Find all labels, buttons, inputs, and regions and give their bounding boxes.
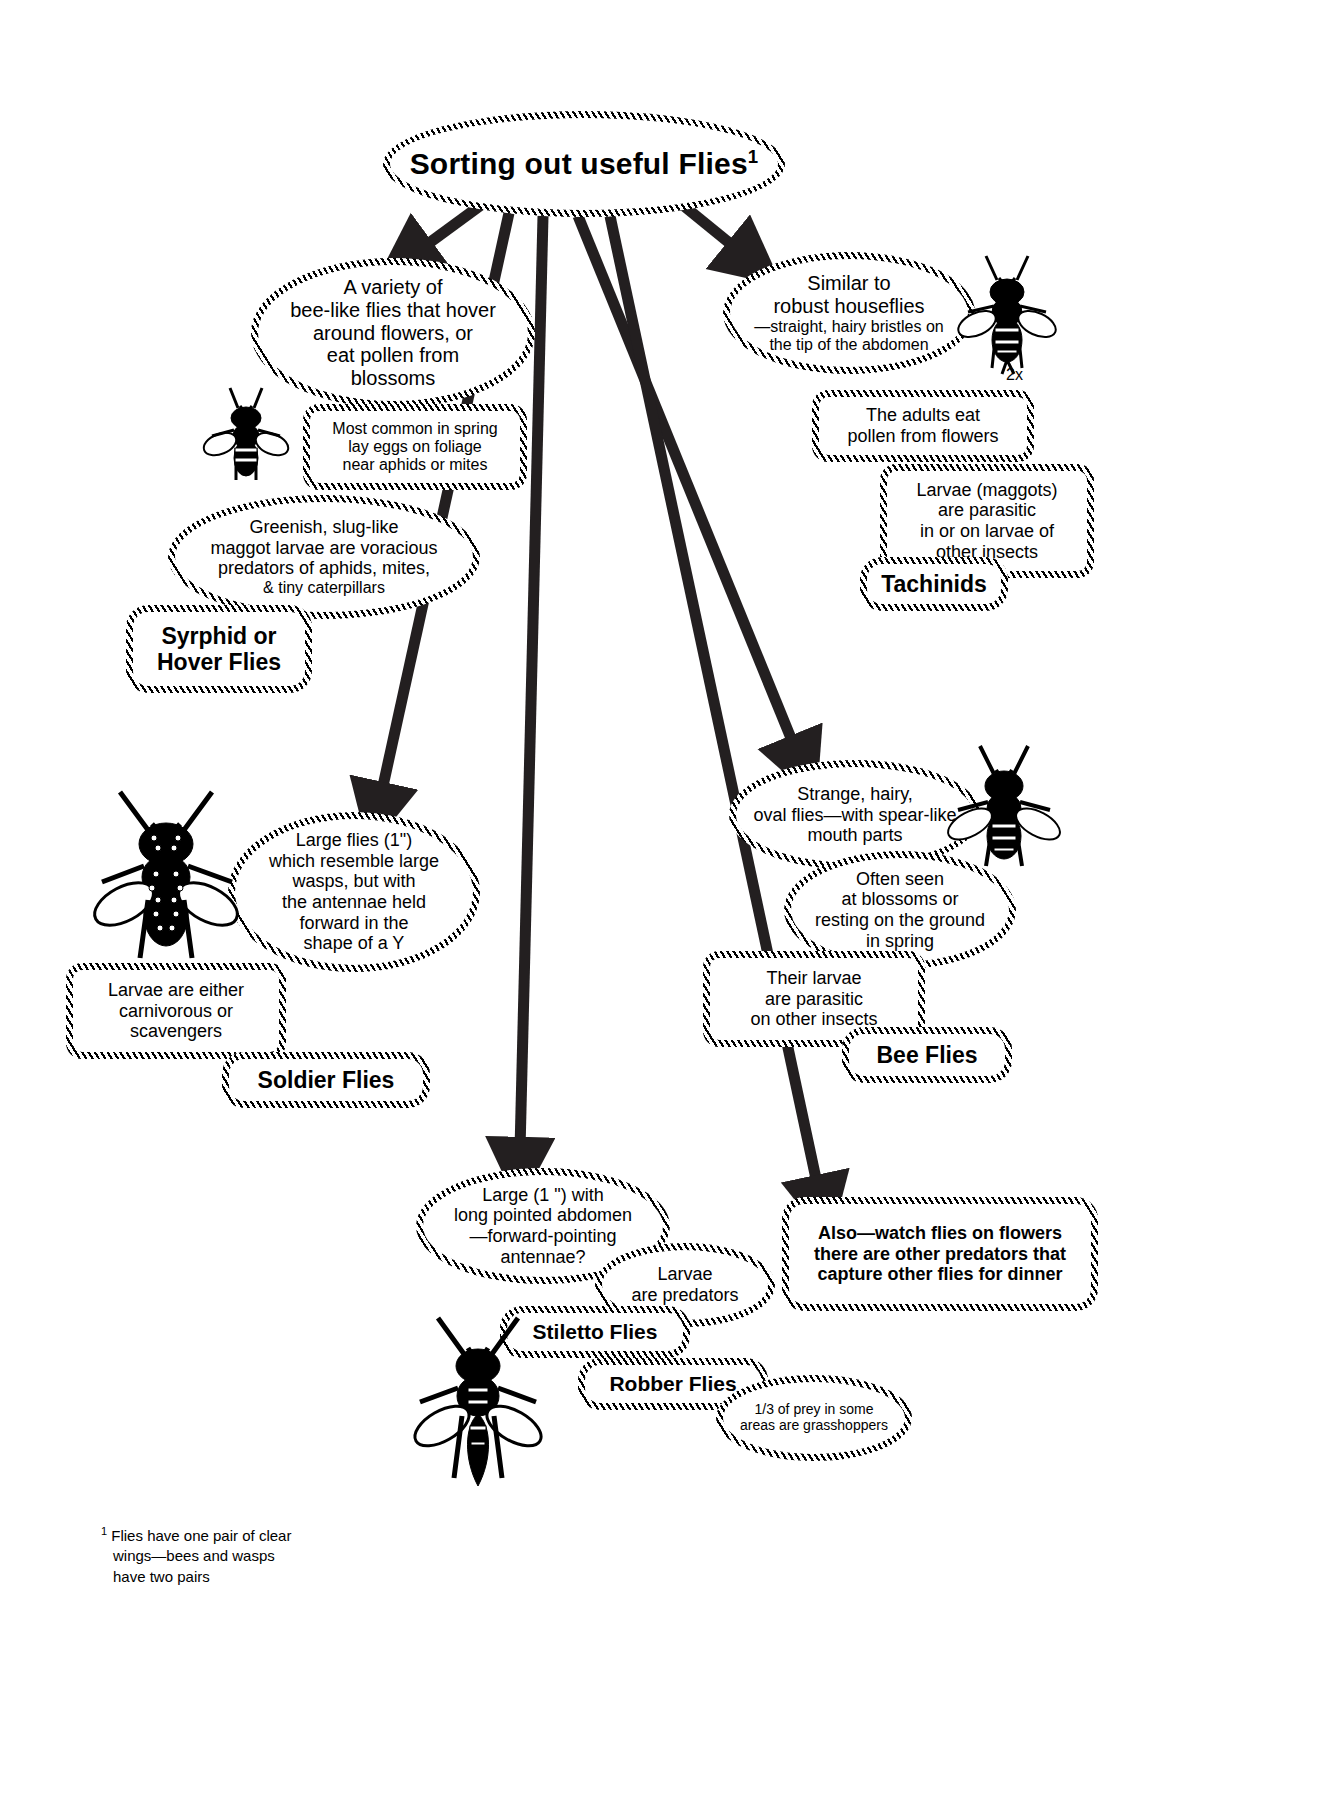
category-tachinids: Tachinids <box>860 557 1008 611</box>
line: there are other predators that <box>814 1244 1066 1265</box>
category-syrphid-hover-flies: Syrphid or Hover Flies <box>126 605 312 693</box>
line: pollen from flowers <box>847 426 998 447</box>
line: —straight, hairy bristles on <box>754 318 943 336</box>
line: eat pollen from <box>290 344 496 367</box>
fly-illustration-tachinid <box>952 250 1062 375</box>
line: which resemble large <box>269 851 439 872</box>
line: Also—watch flies on flowers <box>814 1223 1066 1244</box>
line: Hover Flies <box>157 649 281 675</box>
footnote-line-1: Flies have one pair of clear <box>111 1527 291 1544</box>
line: scavengers <box>108 1021 244 1042</box>
line: Large (1 ") with <box>454 1185 632 1206</box>
diagram-title: Sorting out useful Flies1 <box>383 111 785 217</box>
line: Large flies (1") <box>269 830 439 851</box>
line: Similar to <box>754 272 943 295</box>
node-tachinid-adults: The adults eat pollen from flowers <box>812 390 1034 462</box>
line: mouth parts <box>753 825 956 846</box>
node-also-watch: Also—watch flies on flowers there are ot… <box>782 1197 1098 1311</box>
line: forward in the <box>269 913 439 934</box>
line: Often seen <box>815 869 985 890</box>
node-syrphid-larvae: Greenish, slug-like maggot larvae are vo… <box>168 495 480 619</box>
title-text: Sorting out useful Flies <box>410 147 748 180</box>
line: Soldier Flies <box>258 1067 395 1093</box>
line: the tip of the abdomen <box>754 336 943 354</box>
footnote-marker: 1 <box>101 1525 107 1537</box>
line: in spring <box>815 931 985 952</box>
line: shape of a Y <box>269 933 439 954</box>
line: Strange, hairy, <box>753 784 956 805</box>
line: capture other flies for dinner <box>814 1264 1066 1285</box>
line: are predators <box>631 1285 738 1306</box>
node-tachinid-description: Similar to robust houseflies —straight, … <box>723 252 975 374</box>
title-footnote-marker: 1 <box>748 146 759 167</box>
line: robust houseflies <box>754 295 943 318</box>
line: predators of aphids, mites, <box>210 558 437 579</box>
line: Their larvae <box>750 968 877 989</box>
line: near aphids or mites <box>332 456 497 474</box>
footnote-line-3: have two pairs <box>113 1568 210 1585</box>
line: Larvae <box>631 1264 738 1285</box>
line: around flowers, or <box>290 322 496 345</box>
diagram-canvas: Sorting out useful Flies1 A variety of b… <box>0 0 1341 1814</box>
line: are parasitic <box>750 989 877 1010</box>
line: areas are grasshoppers <box>740 1418 888 1434</box>
line: Tachinids <box>881 571 987 597</box>
line: lay eggs on foliage <box>332 438 497 456</box>
node-soldier-description: Large flies (1") which resemble large wa… <box>228 812 480 972</box>
line: Larvae (maggots) <box>916 480 1057 501</box>
line: oval flies—with spear-like <box>753 805 956 826</box>
line: bee-like flies that hover <box>290 299 496 322</box>
line: the antennae held <box>269 892 439 913</box>
line: resting on the ground <box>815 910 985 931</box>
line: Most common in spring <box>332 420 497 438</box>
category-bee-flies: Bee Flies <box>842 1027 1012 1083</box>
line: at blossoms or <box>815 889 985 910</box>
line: 1/3 of prey in some <box>740 1402 888 1418</box>
category-soldier-flies: Soldier Flies <box>222 1052 430 1108</box>
fly-illustration-soldier <box>86 782 246 967</box>
line: A variety of <box>290 276 496 299</box>
node-soldier-larvae: Larvae are either carnivorous or scaveng… <box>66 963 286 1059</box>
line: Syrphid or <box>157 623 281 649</box>
fly-illustration-bee-fly <box>944 740 1064 870</box>
line: Greenish, slug-like <box>210 517 437 538</box>
line: Bee Flies <box>877 1042 978 1068</box>
line: blossoms <box>290 367 496 390</box>
line: —forward-pointing <box>454 1226 632 1247</box>
line: The adults eat <box>847 405 998 426</box>
line: Larvae are either <box>108 980 244 1001</box>
footnote-line-2: wings—bees and wasps <box>113 1547 275 1564</box>
line: are parasitic <box>916 500 1057 521</box>
footnote: 1 Flies have one pair of clear wings—bee… <box>101 1524 361 1587</box>
line: carnivorous or <box>108 1001 244 1022</box>
line: Robber Flies <box>609 1372 736 1396</box>
line: Stiletto Flies <box>533 1320 658 1344</box>
node-syrphid-eggs: Most common in spring lay eggs on foliag… <box>303 404 527 490</box>
node-robber-prey: 1/3 of prey in some areas are grasshoppe… <box>716 1375 912 1461</box>
line: wasps, but with <box>269 871 439 892</box>
line: long pointed abdomen <box>454 1205 632 1226</box>
line: maggot larvae are voracious <box>210 538 437 559</box>
line: & tiny caterpillars <box>210 579 437 597</box>
fly-illustration-robber <box>408 1310 548 1490</box>
line: in or on larvae of <box>916 521 1057 542</box>
fly-illustration-syrphid <box>196 378 296 488</box>
